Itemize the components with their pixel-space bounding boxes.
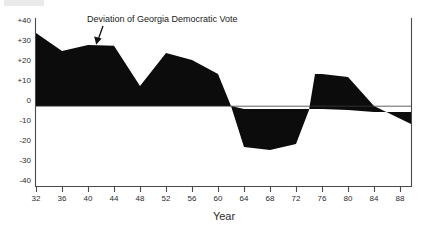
annotation-arrow-icon <box>94 26 103 45</box>
x-tick-label: 44 <box>110 194 119 203</box>
x-tick-label: 56 <box>188 194 197 203</box>
x-tick-label: 36 <box>58 194 67 203</box>
y-tick-label: +20 <box>17 56 31 65</box>
x-tick-label: 84 <box>370 194 379 203</box>
x-tick-label: 76 <box>318 194 327 203</box>
x-tick-label: 60 <box>214 194 223 203</box>
y-tick-label: -40 <box>19 176 31 185</box>
series-deviation-georgia-democratic-vote <box>36 33 411 150</box>
y-tick-label: +30 <box>17 36 31 45</box>
series-annotation-label: Deviation of Georgia Democratic Vote <box>87 14 238 24</box>
x-axis-title: Year <box>213 210 236 222</box>
scan-artifact-top-left <box>4 0 44 6</box>
area-fill <box>36 33 411 150</box>
x-tick-label: 88 <box>396 194 405 203</box>
x-tick-label: 52 <box>162 194 171 203</box>
y-tick-label: +10 <box>17 76 31 85</box>
x-tick-label: 80 <box>344 194 353 203</box>
y-tick-label: -20 <box>19 136 31 145</box>
y-tick-label: +40 <box>17 16 31 25</box>
x-tick-label: 40 <box>84 194 93 203</box>
y-tick-label: -30 <box>19 156 31 165</box>
x-tick-label: 68 <box>266 194 275 203</box>
x-tick-label: 72 <box>292 194 301 203</box>
x-axis-ticks <box>37 187 401 193</box>
y-tick-label: -10 <box>19 116 31 125</box>
x-tick-label: 64 <box>240 194 249 203</box>
x-tick-label: 48 <box>136 194 145 203</box>
deviation-area-chart: +40 +30 +20 +10 0 -10 -20 -30 -40 Deviat… <box>0 0 436 235</box>
chart-canvas: +40 +30 +20 +10 0 -10 -20 -30 -40 Deviat… <box>0 0 436 235</box>
x-tick-labels: 32 36 40 44 48 52 56 60 64 68 72 76 80 8… <box>32 194 405 203</box>
y-tick-label: 0 <box>27 96 32 105</box>
y-tick-labels: +40 +30 +20 +10 0 -10 -20 -30 -40 <box>17 16 31 185</box>
x-tick-label: 32 <box>32 194 41 203</box>
